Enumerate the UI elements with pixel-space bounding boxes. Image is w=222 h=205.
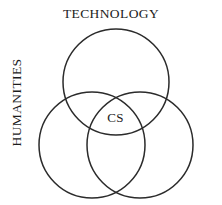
venn-circle-humanities xyxy=(39,92,145,198)
venn-label-humanities: HUMANITIES xyxy=(0,0,34,205)
venn-circle-science xyxy=(87,92,193,198)
venn-label-center-cs: CS xyxy=(0,111,222,124)
venn-diagram-figure: TECHNOLOGY HUMANITIES SCIENCE CS xyxy=(0,0,222,205)
